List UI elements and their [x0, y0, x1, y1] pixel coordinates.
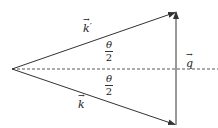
k-symbol: k [78, 99, 85, 110]
k-prime-symbol: k [83, 23, 90, 34]
q-label: q [186, 58, 193, 69]
lower-theta: θ [105, 74, 113, 86]
upper-denominator: 2 [106, 52, 112, 63]
lower-half-angle-label: θ 2 [105, 74, 113, 97]
k-vector [12, 69, 175, 125]
q-symbol: q [186, 58, 193, 69]
k-prime-label: k′ [83, 23, 92, 34]
upper-theta: θ [105, 40, 113, 52]
lower-denominator: 2 [106, 86, 112, 97]
upper-half-angle-label: θ 2 [105, 40, 113, 63]
k-prime-vector [12, 13, 175, 70]
k-label: k [78, 99, 85, 110]
